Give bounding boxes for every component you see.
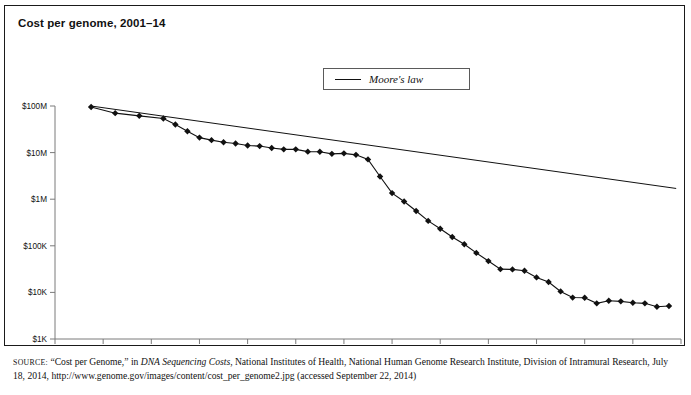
svg-text:$1K: $1K bbox=[32, 335, 47, 344]
chart-plot-area: $100M$10M$1M$100K$10K$1K 200120022003200… bbox=[5, 6, 686, 347]
cost-per-genome-line bbox=[91, 107, 669, 307]
source-note: SOURCE: “Cost per Genome,” in DNA Sequen… bbox=[13, 355, 681, 382]
svg-text:$100K: $100K bbox=[23, 242, 47, 251]
svg-text:$10M: $10M bbox=[27, 149, 48, 158]
chart-axes bbox=[55, 106, 681, 339]
x-axis-ticks: 2001200220032004200520062007200820092010… bbox=[46, 339, 686, 347]
source-label: SOURCE: bbox=[13, 358, 48, 367]
svg-text:$100M: $100M bbox=[22, 102, 47, 111]
source-publication-title: DNA Sequencing Costs bbox=[141, 356, 230, 367]
y-axis-ticks: $100M$10M$1M$100K$10K$1K bbox=[22, 102, 55, 344]
cost-per-genome-markers bbox=[88, 104, 672, 310]
chart-panel: Cost per genome, 2001–14 Moore's law $10… bbox=[4, 5, 685, 346]
moores-law-line bbox=[91, 106, 676, 188]
svg-text:$1M: $1M bbox=[31, 195, 47, 204]
source-text-part1: “Cost per Genome,” in bbox=[48, 356, 141, 367]
svg-text:$10K: $10K bbox=[28, 288, 48, 297]
